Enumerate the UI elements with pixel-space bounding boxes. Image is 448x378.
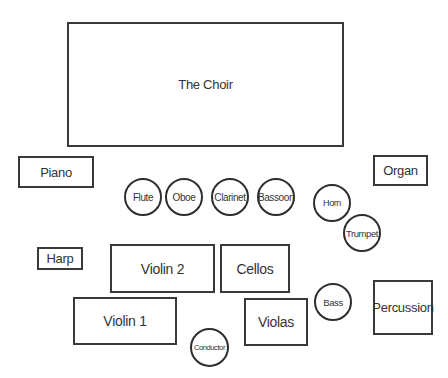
conductor-position: Conductor xyxy=(190,328,229,367)
violas-section: Violas xyxy=(244,298,308,346)
flute-seat: Flute xyxy=(124,178,162,216)
horn-seat: Horn xyxy=(313,184,351,222)
conductor-label: Conductor xyxy=(194,343,225,352)
violas-label: Violas xyxy=(258,314,294,330)
clarinet-seat: Clarinet xyxy=(211,178,249,216)
trumpet-seat: Trumpet xyxy=(343,214,381,252)
horn-label: Horn xyxy=(323,198,341,208)
oboe-seat: Oboe xyxy=(165,178,203,216)
piano-section: Piano xyxy=(18,156,94,188)
piano-label: Piano xyxy=(40,165,72,180)
violin2-section: Violin 2 xyxy=(110,244,215,293)
organ-section: Organ xyxy=(373,155,428,186)
trumpet-label: Trumpet xyxy=(346,228,378,239)
clarinet-label: Clarinet xyxy=(214,192,245,203)
harp-label: Harp xyxy=(47,251,74,266)
orchestra-seating-diagram: The Choir Piano Organ Flute Oboe Clarine… xyxy=(0,0,448,378)
bass-seat: Bass xyxy=(314,283,352,321)
cellos-label: Cellos xyxy=(236,261,273,277)
organ-label: Organ xyxy=(383,163,418,178)
bassoon-seat: Bassoon xyxy=(257,178,295,216)
violin2-label: Violin 2 xyxy=(141,261,184,277)
violin1-label: Violin 1 xyxy=(103,313,146,329)
bass-label: Bass xyxy=(323,297,343,308)
flute-label: Flute xyxy=(133,192,153,203)
cellos-section: Cellos xyxy=(220,244,290,293)
percussion-label: Percussion xyxy=(372,300,433,315)
bassoon-label: Bassoon xyxy=(258,192,294,203)
percussion-section: Percussion xyxy=(373,280,433,335)
choir-section: The Choir xyxy=(67,22,344,147)
harp-section: Harp xyxy=(37,247,83,270)
violin1-section: Violin 1 xyxy=(73,297,177,345)
oboe-label: Oboe xyxy=(173,192,196,203)
choir-label: The Choir xyxy=(178,77,232,92)
